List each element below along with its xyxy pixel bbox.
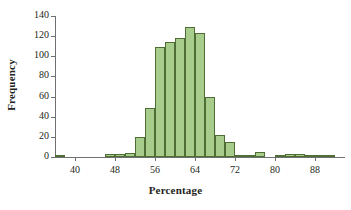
x-tick-label: 48: [110, 164, 120, 175]
histogram-bar: [325, 155, 335, 157]
y-tick-mark: [51, 76, 55, 77]
y-axis-title: Frequency: [0, 0, 22, 170]
histogram-bar: [305, 155, 315, 157]
x-tick-mark: [235, 157, 236, 161]
histogram-bar: [165, 42, 175, 157]
y-tick-mark: [51, 97, 55, 98]
histogram-bar: [105, 154, 115, 157]
x-axis-title: Percentage: [0, 184, 351, 196]
x-tick-mark: [75, 157, 76, 161]
y-tick-label: 100: [34, 49, 49, 60]
x-axis-title-label: Percentage: [149, 184, 203, 196]
histogram-bar: [185, 27, 195, 157]
histogram-bar: [235, 155, 245, 157]
y-tick-mark: [51, 56, 55, 57]
y-tick-label: 60: [39, 90, 49, 101]
histogram-figure: Frequency 020406080100120140 40485664728…: [0, 0, 351, 210]
x-tick-mark: [115, 157, 116, 161]
histogram-bar: [225, 142, 235, 157]
y-tick-mark: [51, 157, 55, 158]
y-tick-label: 40: [39, 110, 49, 121]
y-tick-label: 0: [44, 150, 49, 161]
histogram-bar: [275, 155, 285, 157]
histogram-bar: [215, 135, 225, 157]
y-tick-mark: [51, 117, 55, 118]
x-tick-label: 72: [230, 164, 240, 175]
y-tick-mark: [51, 137, 55, 138]
y-axis-line: [55, 16, 56, 157]
histogram-bar: [145, 108, 155, 157]
histogram-bar: [195, 33, 205, 157]
y-tick-label: 80: [39, 69, 49, 80]
histogram-bar: [155, 47, 165, 157]
histogram-bar: [175, 38, 185, 157]
x-tick-label: 40: [70, 164, 80, 175]
histogram-bar: [55, 155, 65, 157]
x-tick-mark: [275, 157, 276, 161]
y-tick-label: 20: [39, 130, 49, 141]
x-tick-label: 88: [310, 164, 320, 175]
histogram-bar: [125, 153, 135, 157]
x-tick-label: 56: [150, 164, 160, 175]
x-tick-mark: [195, 157, 196, 161]
y-tick-label: 120: [34, 29, 49, 40]
plot-area: 020406080100120140 40485664728088: [55, 16, 345, 157]
histogram-bar: [295, 154, 305, 157]
histogram-bar: [255, 152, 265, 157]
x-axis-line: [55, 157, 345, 158]
x-tick-mark: [155, 157, 156, 161]
histogram-bar: [315, 155, 325, 157]
x-tick-label: 64: [190, 164, 200, 175]
histogram-bar: [135, 137, 145, 157]
histogram-bar: [285, 154, 295, 157]
x-tick-label: 80: [270, 164, 280, 175]
histogram-bar: [115, 154, 125, 157]
y-tick-mark: [51, 36, 55, 37]
x-tick-mark: [315, 157, 316, 161]
histogram-bar: [245, 155, 255, 157]
histogram-bar: [205, 97, 215, 157]
y-axis-title-label: Frequency: [5, 59, 17, 111]
y-tick-label: 140: [34, 9, 49, 20]
y-tick-mark: [51, 16, 55, 17]
